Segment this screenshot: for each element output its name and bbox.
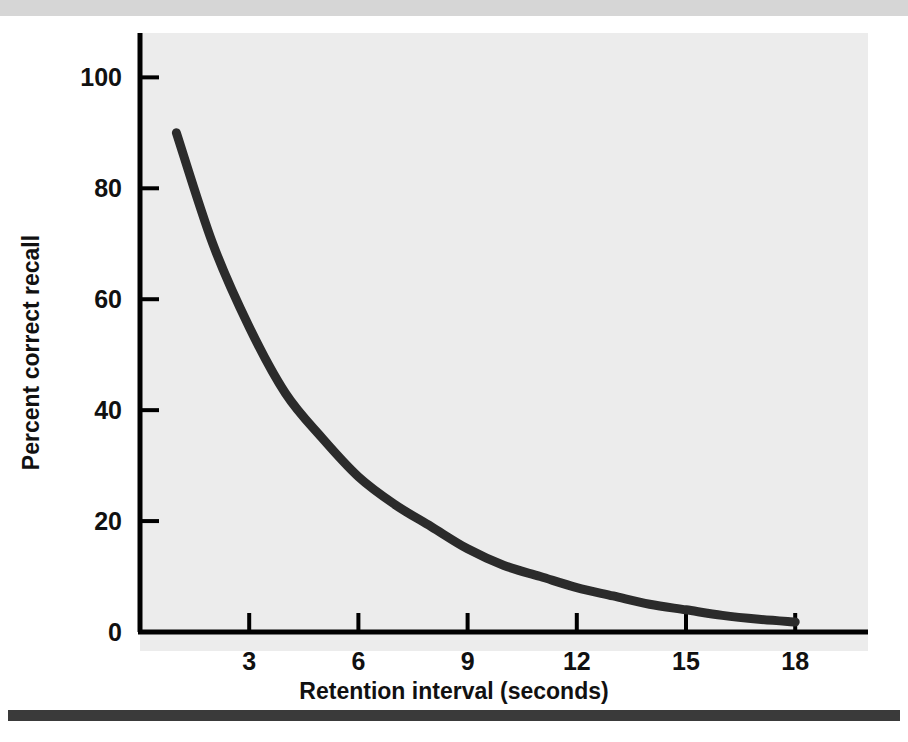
y-axis-tick-label-40: 40	[94, 398, 122, 423]
x-axis-tick-label-9: 9	[461, 649, 475, 674]
x-axis-tick-label-6: 6	[351, 649, 365, 674]
chart-canvas	[0, 16, 908, 706]
recall-decay-curve	[176, 133, 795, 622]
x-axis-tick-label-18: 18	[781, 649, 809, 674]
y-axis-tick-label-100: 100	[80, 65, 122, 90]
y-axis-tick-label-0: 0	[108, 620, 122, 645]
y-axis-tick-label-20: 20	[94, 509, 122, 534]
y-axis-title: Percent correct recall	[18, 193, 45, 513]
top-decorative-rule	[0, 0, 908, 16]
x-axis-tick-label-12: 12	[563, 649, 591, 674]
x-axis-tick-label-3: 3	[242, 649, 256, 674]
retention-curve-figure: 204060801000 369121518 Percent correct r…	[0, 16, 908, 706]
y-axis-ticks	[140, 77, 159, 521]
x-axis-tick-label-15: 15	[672, 649, 700, 674]
x-axis-title: Retention interval (seconds)	[0, 678, 908, 705]
bottom-decorative-rule	[8, 710, 900, 721]
y-axis-tick-label-80: 80	[94, 176, 122, 201]
y-axis-tick-label-60: 60	[94, 287, 122, 312]
